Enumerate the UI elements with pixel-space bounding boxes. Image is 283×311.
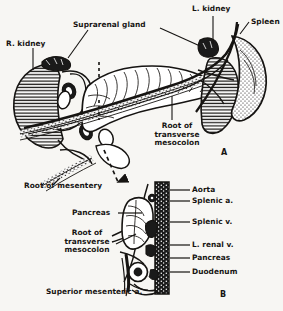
label-splenic-vein: Splenic v. [192,218,232,227]
label-spleen: Spleen [251,18,280,27]
panel-letter-a: A [221,148,227,157]
label-l-kidney: L. kidney [192,5,230,14]
label-root-transverse-mesocolon-a: Root oftransversemesocolon [150,122,204,148]
label-root-of-mesentery: Root of mesentery [24,182,102,191]
label-root-transverse-mesocolon-b: Root oftransversemesocolon [58,229,116,255]
right-suprarenal-gland [42,57,71,71]
label-suprarenal-gland: Suprarenal gland [73,21,146,30]
duodenum-b [129,263,159,282]
label-left-renal-vein: L. renal v. [192,241,234,250]
anatomy-figure: R. kidney Suprarenal gland L. kidney Spl… [0,0,283,311]
label-duodenum: Duodenum [192,268,237,277]
panel-letter-b: B [220,290,226,299]
left-renal-vein-b [146,245,156,257]
panel-a-artwork [14,16,267,191]
lower-bowel-fragments [60,144,129,168]
label-aorta: Aorta [192,186,215,195]
label-pancreas-right: Pancreas [192,254,230,263]
label-pancreas-left: Pancreas [72,209,110,218]
left-suprarenal-gland [198,38,218,57]
label-r-kidney: R. kidney [6,40,46,49]
splenic-artery-b [148,194,155,201]
label-splenic-artery: Splenic a. [192,197,233,206]
label-superior-mesenteric-artery: Superior mesenteric a. [46,288,142,297]
splenic-vein-b [146,220,158,237]
panel-b-artwork [112,182,190,296]
